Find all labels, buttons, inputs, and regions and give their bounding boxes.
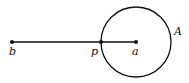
label-p: p [91, 45, 98, 58]
point-b [10, 40, 14, 44]
point-p [99, 40, 103, 44]
label-b: b [9, 45, 16, 58]
point-a [134, 40, 138, 44]
label-circle-A: A [173, 25, 182, 38]
label-a: a [132, 45, 139, 58]
diagram-canvas: b p a A [0, 0, 189, 83]
